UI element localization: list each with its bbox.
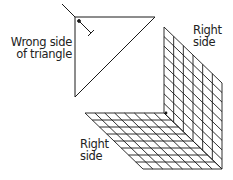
triangle [62,4,155,97]
label-right-side-wall: Right side [193,24,222,48]
label-right-side-floor-line2: side [80,150,109,162]
label-right-side-floor: Right side [80,138,109,162]
label-right-side-wall-line2: side [193,36,222,48]
label-wrong-side: Wrong side of triangle [4,36,72,60]
label-wrong-side-line2: of triangle [4,48,72,60]
corner-dot [165,112,168,115]
